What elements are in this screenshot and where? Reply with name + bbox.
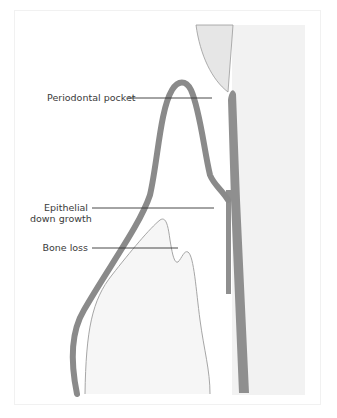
epithelial-downgrowth (226, 190, 231, 294)
label-bone-loss: Bone loss (30, 242, 88, 253)
label-epithelial-line2: down growth (30, 213, 88, 224)
label-periodontal-pocket: Periodontal pocket (47, 92, 135, 103)
bone-fill (85, 219, 210, 394)
label-epithelial-line1: Epithelial (30, 202, 88, 213)
crown-shape (196, 25, 233, 92)
